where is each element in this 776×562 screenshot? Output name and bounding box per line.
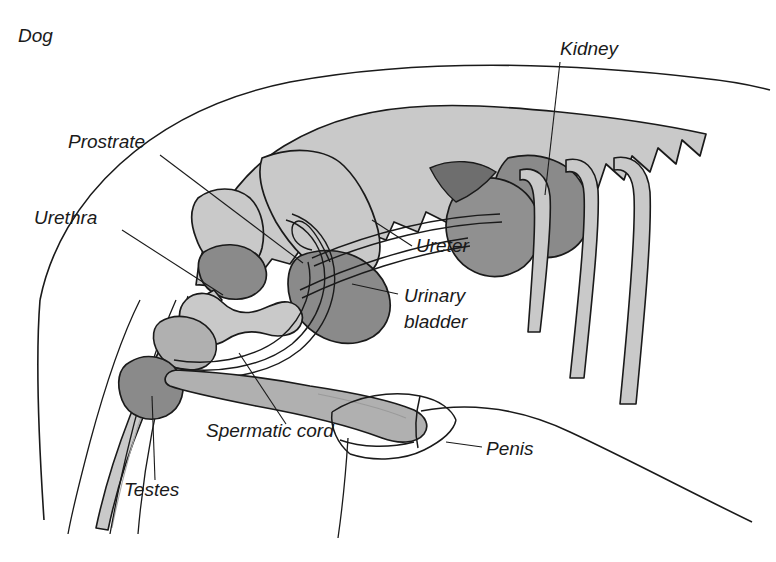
label-kidney: Kidney	[560, 38, 620, 59]
label-prostrate: Prostrate	[68, 131, 145, 152]
label-ureter: Ureter	[416, 235, 469, 256]
dog-anatomy-diagram: ProstrateUrethraKidneyUreterUrinarybladd…	[0, 0, 776, 562]
label-penis: Penis	[486, 438, 534, 459]
label-urinary-bladder-line2: bladder	[404, 311, 468, 332]
label-urinary-bladder: Urinary	[404, 285, 467, 306]
label-spermatic-cord: Spermatic cord	[206, 420, 335, 441]
label-testes: Testes	[124, 479, 180, 500]
figure-title: Dog	[18, 25, 53, 46]
label-urethra: Urethra	[34, 207, 97, 228]
